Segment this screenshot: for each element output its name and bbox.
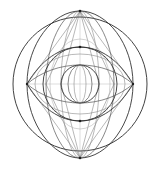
geometry-figure	[0, 0, 160, 169]
node-right-vertex	[132, 83, 134, 85]
node-top-vertex	[79, 10, 82, 13]
geometry-canvas	[0, 0, 160, 169]
node-left-vertex	[26, 83, 28, 85]
node-bottom-vertex	[79, 157, 82, 160]
node-lower	[79, 120, 82, 123]
node-upper	[79, 46, 82, 49]
